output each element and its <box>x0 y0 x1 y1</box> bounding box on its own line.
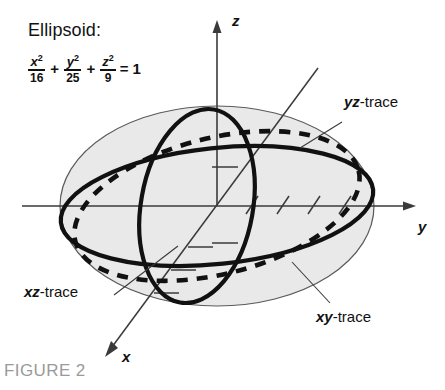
figure-caption: FIGURE 2 <box>4 361 86 381</box>
yz-trace-label: yz-trace <box>344 93 398 110</box>
equation-right-hand-side: 1 <box>133 60 141 77</box>
equation-term-y-denominator: 25 <box>64 71 81 84</box>
xz-trace-label: xz-trace <box>24 283 78 300</box>
x-axis-label: x <box>122 348 130 365</box>
equation-term-y-exponent: 2 <box>74 53 79 63</box>
equation-equals-sign: = <box>120 60 129 77</box>
equation-term-z-exponent: 2 <box>109 53 114 63</box>
equation-term-x-numerator: x2 <box>29 54 45 69</box>
y-axis-arrowhead <box>403 202 416 211</box>
equation-term-x-exponent: 2 <box>38 53 43 63</box>
equation-term-y-numerator: y2 <box>65 54 81 69</box>
y-axis-label: y <box>418 218 426 235</box>
equation-term-x-denominator: 16 <box>28 71 45 84</box>
equation-term-z-numerator: z2 <box>100 54 116 69</box>
equation-term-x: x2 16 <box>28 54 45 84</box>
equation-operator-1: + <box>49 60 60 77</box>
xz-trace-label-italic: xz <box>24 283 40 300</box>
yz-trace-label-rest: -trace <box>360 93 398 110</box>
equation-operator-2: + <box>85 60 96 77</box>
ellipsoid-equation: x2 16 + y2 25 + z2 9 = 1 <box>28 54 141 84</box>
figure-title: Ellipsoid: <box>28 20 101 41</box>
xy-trace-label-rest: -trace <box>333 308 371 325</box>
yz-trace-label-italic: yz <box>344 93 360 110</box>
equation-term-z-denominator: 9 <box>103 71 114 84</box>
figure-container: Ellipsoid: x2 16 + y2 25 + z2 9 = 1 z y … <box>0 0 445 390</box>
xy-trace-label: xy-trace <box>316 308 371 325</box>
z-axis-arrowhead <box>213 20 222 33</box>
xz-trace-label-rest: -trace <box>40 283 78 300</box>
x-axis-arrowhead <box>105 341 118 357</box>
xy-trace-label-italic: xy <box>316 308 333 325</box>
equation-term-y: y2 25 <box>64 54 81 84</box>
equation-term-z: z2 9 <box>100 54 116 84</box>
z-axis-label: z <box>232 12 240 29</box>
